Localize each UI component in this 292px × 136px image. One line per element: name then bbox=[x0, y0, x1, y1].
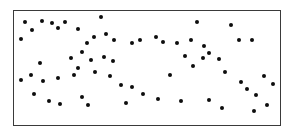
data-point bbox=[99, 15, 103, 19]
data-point bbox=[63, 20, 67, 24]
data-point bbox=[189, 38, 193, 42]
data-point bbox=[32, 92, 36, 96]
data-point bbox=[112, 38, 116, 42]
data-point bbox=[168, 73, 172, 77]
data-point bbox=[124, 101, 128, 105]
data-point bbox=[130, 41, 134, 45]
data-point bbox=[175, 41, 179, 45]
data-point bbox=[271, 82, 275, 86]
data-point bbox=[201, 56, 205, 60]
data-point bbox=[38, 61, 42, 65]
data-point bbox=[220, 106, 224, 110]
data-point bbox=[104, 32, 108, 36]
data-point bbox=[245, 87, 249, 91]
data-point bbox=[156, 97, 160, 101]
data-point bbox=[179, 99, 183, 103]
data-point bbox=[19, 78, 23, 82]
data-point bbox=[111, 59, 115, 63]
data-point bbox=[30, 28, 34, 32]
data-point bbox=[217, 57, 221, 61]
data-point bbox=[47, 99, 51, 103]
data-point bbox=[86, 103, 90, 107]
data-point bbox=[265, 103, 269, 107]
data-point bbox=[102, 55, 106, 59]
data-point bbox=[92, 35, 96, 39]
data-point bbox=[252, 109, 256, 113]
data-point bbox=[76, 27, 80, 31]
data-point bbox=[183, 54, 187, 58]
data-point bbox=[72, 73, 76, 77]
data-point bbox=[23, 20, 27, 24]
data-point bbox=[250, 38, 254, 42]
data-point bbox=[80, 50, 84, 54]
data-point bbox=[50, 21, 54, 25]
data-point bbox=[195, 20, 199, 24]
data-point bbox=[237, 38, 241, 42]
data-point bbox=[85, 41, 89, 45]
data-point bbox=[154, 35, 158, 39]
data-point bbox=[89, 58, 93, 62]
data-point bbox=[19, 37, 23, 41]
plot-frame bbox=[13, 10, 281, 126]
data-point bbox=[93, 70, 97, 74]
data-point bbox=[207, 51, 211, 55]
data-point bbox=[229, 23, 233, 27]
data-point bbox=[80, 95, 84, 99]
data-point bbox=[207, 98, 211, 102]
data-point bbox=[191, 64, 195, 68]
data-point bbox=[138, 38, 142, 42]
plot-area bbox=[14, 11, 280, 125]
data-point bbox=[239, 80, 243, 84]
data-point bbox=[141, 92, 145, 96]
data-point bbox=[56, 26, 60, 30]
scatter-figure bbox=[0, 0, 292, 136]
data-point bbox=[56, 76, 60, 80]
data-point bbox=[40, 19, 44, 23]
data-point bbox=[108, 74, 112, 78]
data-point bbox=[254, 93, 258, 97]
data-point bbox=[58, 102, 62, 106]
data-point bbox=[76, 66, 80, 70]
data-point bbox=[119, 83, 123, 87]
data-point bbox=[262, 74, 266, 78]
data-point bbox=[41, 79, 45, 83]
data-point bbox=[202, 44, 206, 48]
data-point bbox=[223, 70, 227, 74]
data-point bbox=[161, 40, 165, 44]
data-point bbox=[29, 73, 33, 77]
data-point bbox=[69, 56, 73, 60]
data-point bbox=[130, 85, 134, 89]
